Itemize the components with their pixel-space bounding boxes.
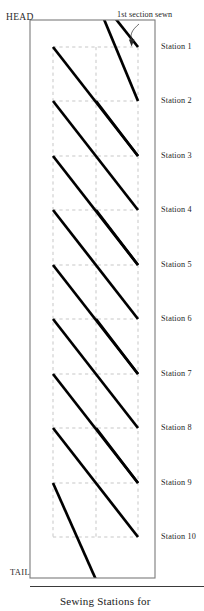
station-label-2: Station 2: [161, 97, 192, 105]
station-label-1: Station 1: [161, 43, 192, 51]
panel-border: [30, 20, 155, 578]
figure-caption: Sewing Stations for: [60, 596, 151, 607]
station-label-7: Station 7: [161, 370, 192, 378]
stitch-14: [53, 428, 138, 537]
stitch-11: [53, 319, 138, 428]
stitch-lines-group: [53, 0, 138, 600]
stitch-4: [96, 101, 138, 156]
station-label-9: Station 9: [161, 479, 192, 487]
stitch-8: [53, 210, 138, 319]
station-label-6: Station 6: [161, 315, 192, 323]
stitch-13: [96, 428, 138, 483]
station-label-5: Station 5: [161, 261, 192, 269]
sewing-stations-figure: HEAD TAIL 1st section sewn Station 1Stat…: [0, 0, 204, 611]
stitch-5: [53, 101, 138, 210]
stitch-7: [96, 210, 138, 265]
head-label: HEAD: [6, 13, 34, 23]
annotation-first-section-sewn: 1st section sewn: [117, 11, 172, 19]
station-label-10: Station 10: [161, 533, 196, 541]
station-label-8: Station 8: [161, 424, 192, 432]
tail-label: TAIL: [10, 568, 30, 577]
station-label-3: Station 3: [161, 152, 192, 160]
dashed-grid: [53, 47, 138, 537]
station-label-4: Station 4: [161, 206, 192, 214]
stitch-15: [53, 483, 105, 600]
stitch-10: [96, 319, 138, 374]
sewing-stations-diagram: [0, 0, 204, 611]
